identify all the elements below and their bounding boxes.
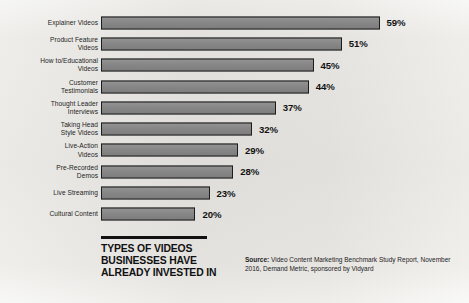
bar-track: 59%	[101, 16, 441, 29]
bar	[101, 101, 276, 114]
category-label: Product Feature Videos	[2, 36, 98, 52]
chart-row: Pre-Recorded Demos28%	[0, 161, 469, 182]
bar-value-label: 28%	[240, 166, 259, 177]
bar-value-label: 51%	[349, 38, 368, 49]
source-text: Video Content Marketing Benchmark Study …	[245, 256, 450, 272]
category-label: Pre-Recorded Demos	[2, 164, 98, 180]
bar-value-label: 37%	[283, 102, 302, 113]
bar	[101, 123, 252, 136]
category-label: Live Streaming	[2, 189, 98, 197]
bar	[101, 165, 233, 178]
chart-row: Taking Head Style Videos32%	[0, 119, 469, 140]
bar	[101, 187, 210, 200]
bar-track: 45%	[101, 59, 441, 72]
chart-row: Customer Testimonials44%	[0, 76, 469, 97]
bar-track: 44%	[101, 80, 441, 93]
chart-row: How to/Educational Videos45%	[0, 55, 469, 76]
page-title: TYPES OF VIDEOS BUSINESSES HAVE ALREADY …	[101, 243, 251, 279]
category-label: Explainer Videos	[2, 19, 98, 27]
bar	[101, 208, 195, 221]
bar	[101, 37, 342, 50]
bar-track: 37%	[101, 101, 441, 114]
bar-chart: Explainer Videos59%Product Feature Video…	[0, 12, 469, 230]
bar-track: 29%	[101, 144, 441, 157]
bar-track: 28%	[101, 165, 441, 178]
category-label: Taking Head Style Videos	[2, 121, 98, 137]
category-label: Cultural Content	[2, 210, 98, 218]
category-label: How to/Educational Videos	[2, 57, 98, 73]
category-label: Live-Action Videos	[2, 142, 98, 158]
source-note: Source: Video Content Marketing Benchmar…	[245, 256, 463, 273]
bar	[101, 59, 314, 72]
bar-value-label: 23%	[217, 188, 236, 199]
chart-row: Live Streaming23%	[0, 182, 469, 203]
chart-row: Live-Action Videos29%	[0, 140, 469, 161]
bar-value-label: 20%	[202, 209, 221, 220]
chart-page: Explainer Videos59%Product Feature Video…	[0, 0, 469, 303]
bar-track: 51%	[101, 37, 441, 50]
bar-value-label: 32%	[259, 124, 278, 135]
category-label: Thought Leader Interviews	[2, 100, 98, 116]
bar	[101, 16, 380, 29]
bar-track: 20%	[101, 208, 441, 221]
chart-row: Product Feature Videos51%	[0, 33, 469, 54]
chart-footer: TYPES OF VIDEOS BUSINESSES HAVE ALREADY …	[0, 232, 469, 303]
bar-track: 23%	[101, 187, 441, 200]
bar-value-label: 59%	[387, 17, 406, 28]
bar-track: 32%	[101, 123, 441, 136]
chart-row: Cultural Content20%	[0, 204, 469, 225]
bar-value-label: 44%	[316, 81, 335, 92]
bar-value-label: 29%	[245, 145, 264, 156]
title-rule	[101, 236, 207, 239]
bar	[101, 144, 238, 157]
bar-value-label: 45%	[321, 60, 340, 71]
source-label: Source:	[245, 256, 269, 263]
chart-row: Thought Leader Interviews37%	[0, 97, 469, 118]
chart-row: Explainer Videos59%	[0, 12, 469, 33]
category-label: Customer Testimonials	[2, 78, 98, 94]
bar	[101, 80, 309, 93]
